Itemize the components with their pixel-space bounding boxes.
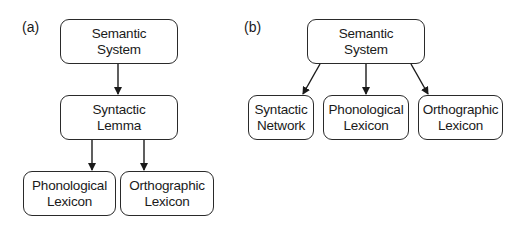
arrow-b-semantic-to-syntactic xyxy=(303,64,320,94)
arrow-b-semantic-to-orthographic xyxy=(411,64,428,94)
edge-arrows xyxy=(0,0,515,230)
